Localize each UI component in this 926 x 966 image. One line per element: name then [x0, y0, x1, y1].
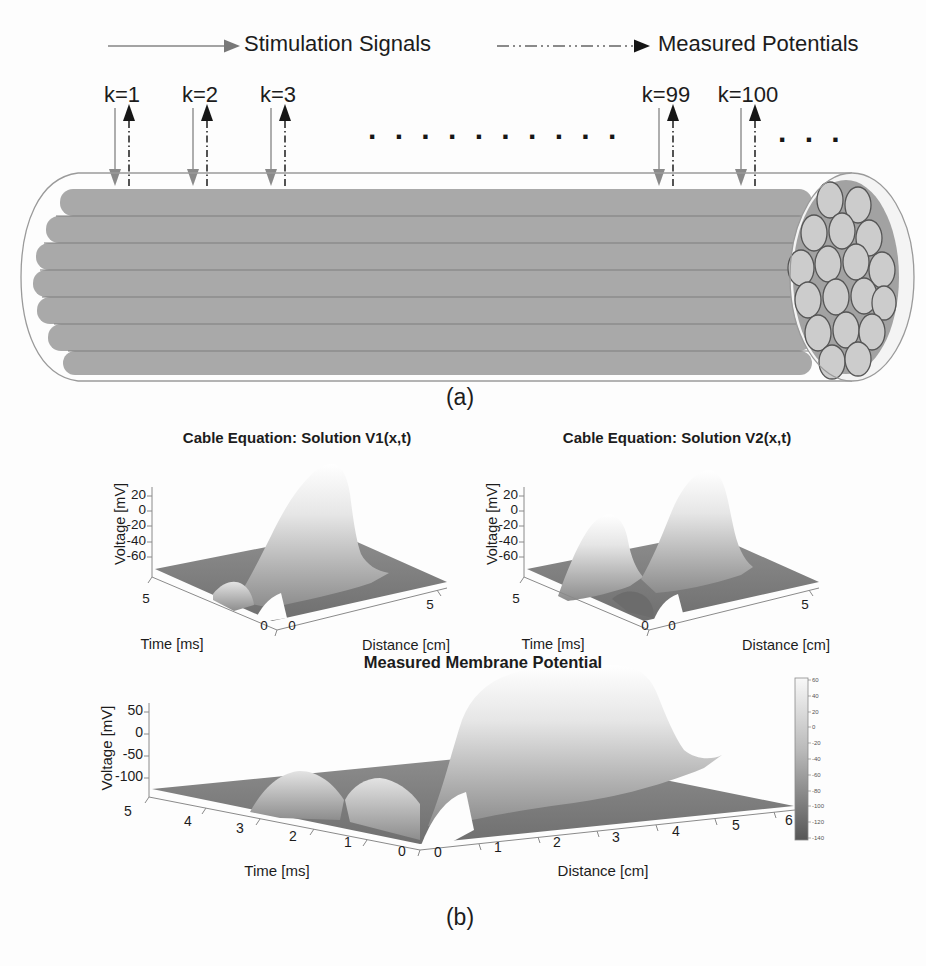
v2-distance-axis-label: Distance [cm]: [742, 638, 830, 653]
measured-time-tick: 5: [124, 804, 132, 818]
fiber-strands: [33, 189, 812, 375]
colorbar-tick: -20: [812, 740, 821, 746]
v2-z-tick: 0: [470, 503, 518, 517]
electrode-arrow-pair-k2: [187, 104, 213, 186]
v2-z-tick: -60: [470, 549, 518, 563]
figure-page: Stimulation Signals Measured Potentials …: [0, 0, 926, 966]
v2-distance-tick: 0: [668, 619, 676, 633]
measured-distance-tick: 0: [434, 845, 442, 859]
v1-z-tick: -40: [98, 534, 146, 548]
colorbar-tick: -60: [812, 772, 821, 778]
v2-z-tick: -20: [470, 518, 518, 532]
colorbar-tick: -40: [812, 756, 821, 762]
v1-distance-axis-label: Distance [cm]: [362, 638, 450, 653]
colorbar-tick: 20: [812, 709, 819, 715]
v1-title: Cable Equation: Solution V1(x,t): [183, 430, 411, 445]
v2-z-tick: 20: [470, 488, 518, 502]
v2-distance-tick: 5: [801, 598, 809, 612]
electrode-label-k3: k=3: [260, 84, 296, 106]
measured-z-tick: 0: [93, 725, 143, 739]
v1-time-tick: 0: [260, 619, 268, 633]
v2-title: Cable Equation: Solution V2(x,t): [563, 430, 791, 445]
measured-time-tick: 2: [289, 829, 297, 843]
colorbar-tick: -120: [812, 819, 824, 825]
measured-distance-tick: 3: [612, 830, 620, 844]
measured-z-tick: -50: [93, 747, 143, 761]
electrode-label-k2: k=2: [182, 84, 218, 106]
measured-time-tick: 4: [184, 814, 192, 828]
electrode-label-k100: k=100: [718, 84, 779, 106]
v2-z-tick: -40: [470, 534, 518, 548]
measured-z-tick: -100: [93, 769, 143, 783]
electrode-arrow-pair-k1: [109, 104, 135, 186]
v1-surface-plot: [147, 464, 447, 636]
ellipsis-right: . . .: [778, 117, 842, 147]
measured-time-tick: 3: [236, 821, 244, 835]
measured-distance-tick: 1: [494, 840, 502, 854]
electrode-label-k1: k=1: [104, 84, 140, 106]
measured-z-tick: 50: [93, 703, 143, 717]
measured-distance-tick: 5: [732, 818, 740, 832]
panel-a-label: (a): [446, 386, 474, 409]
colorbar-tick: 40: [812, 693, 819, 699]
colorbar-tick: -140: [812, 835, 824, 841]
measured-distance-tick: 6: [785, 813, 793, 827]
nerve-bundle-illustration: [21, 173, 914, 381]
legend-stimulation-label: Stimulation Signals: [244, 33, 431, 55]
measured-distance-axis-label: Distance [cm]: [558, 863, 649, 878]
v1-z-tick: -20: [98, 518, 146, 532]
colorbar-tick: -100: [812, 803, 824, 809]
electrode-arrow-pair-k3: [265, 104, 291, 186]
v1-z-tick: 20: [98, 488, 146, 502]
colorbar: [795, 678, 811, 840]
v2-surface-plot: [519, 470, 819, 636]
v2-time-tick: 0: [641, 619, 649, 633]
measured-title: Measured Membrane Potential: [364, 654, 602, 671]
v1-z-tick: -60: [98, 549, 146, 563]
measured-time-tick: 0: [398, 844, 406, 858]
measured-distance-tick: 2: [553, 835, 561, 849]
v1-distance-tick: 5: [426, 598, 434, 612]
measured-time-axis-label: Time [ms]: [244, 863, 309, 878]
colorbar-tick: 0: [812, 724, 815, 730]
panel-b-label: (b): [446, 906, 474, 929]
v1-distance-tick: 0: [288, 619, 296, 633]
electrode-arrow-pair-k100: [735, 104, 761, 186]
measured-time-tick: 1: [344, 835, 352, 849]
colorbar-tick: -80: [812, 788, 821, 794]
legend-measured-arrow-icon: [497, 40, 650, 53]
ellipsis-middle: . . . . . . . . . .: [368, 114, 618, 144]
v1-time-tick: 5: [142, 592, 150, 606]
electrode-arrow-pair-k99: [653, 104, 679, 186]
measured-distance-tick: 4: [672, 824, 680, 838]
electrode-label-k99: k=99: [642, 84, 690, 106]
v2-time-axis-label: Time [ms]: [521, 637, 584, 652]
v2-time-tick: 5: [512, 592, 520, 606]
v1-z-tick: 0: [98, 503, 146, 517]
legend-stimulation-arrow-icon: [108, 40, 240, 53]
legend-measured-label: Measured Potentials: [658, 33, 859, 55]
colorbar-tick: 60: [812, 677, 819, 683]
v1-time-axis-label: Time [ms]: [140, 637, 203, 652]
